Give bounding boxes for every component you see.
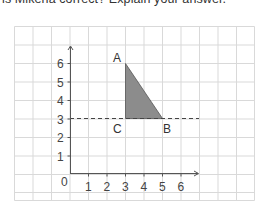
x-tick-2: 2 (104, 180, 111, 194)
point-c-label: C (113, 122, 122, 136)
point-b-label: B (163, 122, 171, 136)
x-tick-labels: 0 1 2 3 4 5 6 (61, 175, 185, 194)
y-tick-4: 4 (57, 94, 64, 108)
x-tick-1: 1 (85, 180, 92, 194)
x-tick-5: 5 (159, 180, 166, 194)
x-tick-6: 6 (178, 180, 185, 194)
coordinate-grid: 6 5 4 3 2 1 0 1 2 3 4 5 6 A B C (0, 0, 264, 210)
y-tick-labels: 6 5 4 3 2 1 (57, 57, 64, 164)
point-a-label: A (113, 51, 121, 65)
origin-label: 0 (61, 175, 68, 189)
y-tick-2: 2 (57, 131, 64, 145)
y-tick-5: 5 (57, 76, 64, 90)
y-tick-3: 3 (57, 113, 64, 127)
y-tick-6: 6 (57, 57, 64, 71)
x-tick-3: 3 (122, 180, 129, 194)
x-tick-4: 4 (141, 180, 148, 194)
y-tick-1: 1 (57, 150, 64, 164)
